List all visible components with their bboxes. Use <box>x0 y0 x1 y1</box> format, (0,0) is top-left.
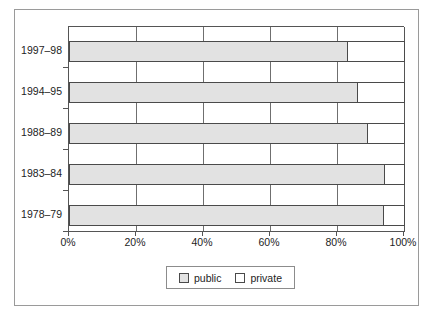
bar-segment-private <box>384 164 405 185</box>
x-axis-tick-label: 20% <box>124 236 145 248</box>
legend-label: private <box>250 272 282 284</box>
bar-segment-private <box>383 205 405 226</box>
x-axis-tick-label: 40% <box>191 236 212 248</box>
y-axis-tick <box>63 190 68 191</box>
stacked-bar-chart-figure: 1997–98 1994–95 1988–89 1983–84 1978–79 … <box>0 0 433 319</box>
x-axis-tick-label: 0% <box>60 236 75 248</box>
bar-row <box>69 41 405 62</box>
bar-row <box>69 205 405 226</box>
y-axis-labels: 1997–98 1994–95 1988–89 1983–84 1978–79 <box>0 26 62 231</box>
bar-row <box>69 123 405 144</box>
plot-area <box>68 26 404 231</box>
x-axis-tick-label: 60% <box>258 236 279 248</box>
y-axis-tick-label: 1978–79 <box>2 208 62 220</box>
bar-segment-public <box>69 41 348 62</box>
bar-row <box>69 164 405 185</box>
bar-segment-public <box>69 82 358 103</box>
y-axis-tick-label: 1983–84 <box>2 167 62 179</box>
y-axis-tick-label: 1988–89 <box>2 126 62 138</box>
legend-label: public <box>194 272 221 284</box>
bar-segment-public <box>69 205 384 226</box>
y-axis-tick-label: 1994–95 <box>2 85 62 97</box>
legend-item-public: public <box>179 272 221 284</box>
bar-segment-private <box>347 41 405 62</box>
bar-segment-public <box>69 123 368 144</box>
y-axis-tick-label: 1997–98 <box>2 44 62 56</box>
y-axis-tick <box>63 149 68 150</box>
bar-row <box>69 82 405 103</box>
legend-item-private: private <box>235 272 282 284</box>
y-axis-tick <box>63 108 68 109</box>
private-swatch-icon <box>235 273 245 283</box>
x-axis-tick-label: 80% <box>325 236 346 248</box>
legend: public private <box>166 266 295 289</box>
y-axis-tick <box>63 67 68 68</box>
public-swatch-icon <box>179 273 189 283</box>
bar-segment-private <box>367 123 405 144</box>
bar-segment-public <box>69 164 385 185</box>
x-axis-line <box>68 231 405 232</box>
bar-segment-private <box>357 82 405 103</box>
x-axis-tick-label: 100% <box>390 236 417 248</box>
